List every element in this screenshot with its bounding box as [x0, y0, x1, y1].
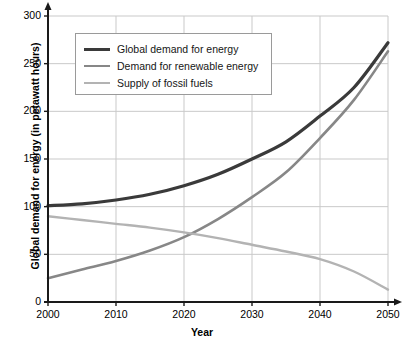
legend-item: Demand for renewable energy	[84, 57, 258, 75]
x-axis-tick-label: 2020	[162, 308, 206, 320]
series-line	[48, 216, 388, 289]
x-axis-arrow	[394, 299, 402, 306]
x-axis-tick-label: 2000	[26, 308, 70, 320]
legend-color-swatch	[84, 65, 110, 67]
legend-item-label: Global demand for energy	[117, 43, 238, 55]
y-axis-title: Global demand for energy (in petawatt ho…	[29, 16, 41, 296]
x-axis-title: Year	[0, 326, 404, 338]
y-axis-tick-label: 0	[7, 295, 41, 307]
legend-item: Supply of fossil fuels	[84, 74, 213, 92]
legend-item: Global demand for energy	[84, 40, 238, 58]
chart-legend: Global demand for energyDemand for renew…	[75, 33, 272, 95]
legend-item-label: Demand for renewable energy	[117, 60, 258, 72]
chart-figure: 300250200150100500 200020102020203020402…	[0, 0, 404, 344]
x-axis-tick-label: 2010	[94, 308, 138, 320]
legend-item-label: Supply of fossil fuels	[117, 77, 213, 89]
x-axis-tick-label: 2040	[298, 308, 342, 320]
x-axis-tick-label: 2030	[230, 308, 274, 320]
y-axis-arrow	[45, 2, 52, 10]
legend-color-swatch	[84, 82, 110, 84]
legend-color-swatch	[84, 48, 110, 51]
x-axis-tick-label: 2050	[366, 308, 404, 320]
